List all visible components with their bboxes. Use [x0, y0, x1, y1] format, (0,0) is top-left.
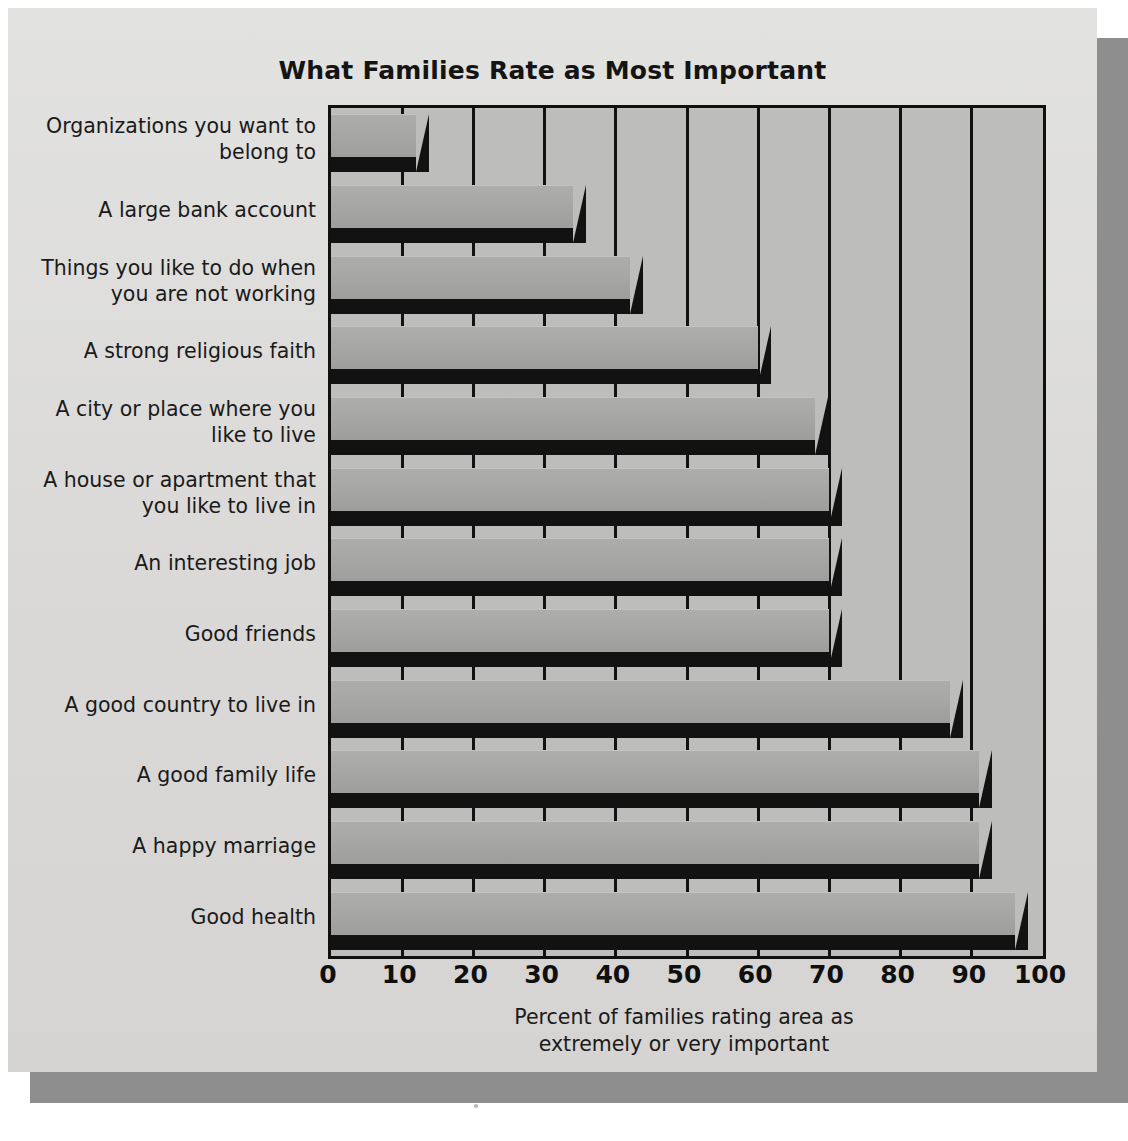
- value-axis-tick-label: 100: [1014, 960, 1066, 989]
- axis-tick-mark: [614, 596, 617, 609]
- axis-tick-mark: [543, 172, 546, 185]
- category-label: Good health: [16, 904, 316, 930]
- axis-tick-mark: [686, 455, 689, 468]
- category-label: Organizations you want tobelong to: [16, 113, 316, 165]
- axis-tick-mark: [970, 808, 973, 821]
- bar-body: [331, 326, 758, 370]
- axis-tick-mark: [401, 384, 404, 397]
- axis-tick-mark: [543, 243, 546, 256]
- category-label-line: belong to: [16, 139, 316, 165]
- axis-tick-mark: [686, 738, 689, 751]
- category-label-line: like to live: [16, 422, 316, 448]
- axis-tick-mark: [686, 108, 689, 114]
- axis-tick-mark: [828, 526, 831, 539]
- axis-tick-mark: [401, 950, 404, 956]
- axis-tick-mark: [970, 172, 973, 185]
- axis-tick-mark: [970, 314, 973, 327]
- axis-tick-mark: [472, 108, 475, 114]
- axis-tick-mark: [472, 667, 475, 680]
- axis-tick-mark: [543, 950, 546, 956]
- category-label-line: A large bank account: [16, 197, 316, 223]
- bar: [331, 750, 979, 808]
- category-label-line: A strong religious faith: [16, 338, 316, 364]
- value-axis-tick-label: 60: [738, 960, 773, 989]
- axis-tick-mark: [543, 314, 546, 327]
- axis-tick-mark: [401, 108, 404, 114]
- axis-tick-mark: [543, 108, 546, 114]
- axis-tick-mark: [970, 738, 973, 751]
- axis-tick-mark: [828, 384, 831, 397]
- value-axis-tick-label: 70: [809, 960, 844, 989]
- axis-tick-mark: [828, 455, 831, 468]
- axis-tick-mark: [614, 667, 617, 680]
- value-axis-tick-label: 40: [595, 960, 630, 989]
- axis-tick-mark: [686, 950, 689, 956]
- axis-tick-mark: [757, 526, 760, 539]
- axis-tick-mark: [686, 879, 689, 892]
- axis-tick-mark: [828, 667, 831, 680]
- category-label-line: Good friends: [16, 621, 316, 647]
- panel-drop-shadow-right: [1097, 38, 1128, 1103]
- axis-tick-mark: [543, 596, 546, 609]
- axis-tick-mark: [401, 172, 404, 185]
- bar-shadow: [331, 511, 829, 526]
- category-label: A happy marriage: [16, 833, 316, 859]
- axis-tick-mark: [614, 950, 617, 956]
- bar-shadow: [331, 864, 979, 879]
- category-label: A city or place where youlike to live: [16, 396, 316, 448]
- axis-tick-mark: [686, 667, 689, 680]
- category-label-line: Things you like to do when: [16, 255, 316, 281]
- axis-tick-mark: [401, 738, 404, 751]
- axis-tick-mark: [970, 596, 973, 609]
- axis-tick-mark: [614, 172, 617, 185]
- category-label-line: A good family life: [16, 762, 316, 788]
- paper-speck: [474, 1104, 478, 1108]
- category-label: Things you like to do whenyou are not wo…: [16, 255, 316, 307]
- value-axis-tick-label: 30: [524, 960, 559, 989]
- bar-shadow: [331, 369, 758, 384]
- bar-body: [331, 468, 829, 512]
- axis-tick-mark: [757, 879, 760, 892]
- axis-tick-mark: [614, 455, 617, 468]
- bar-body: [331, 114, 416, 158]
- bar: [331, 892, 1015, 950]
- axis-tick-mark: [899, 879, 902, 892]
- axis-tick-mark: [614, 738, 617, 751]
- bar-end-cap: [979, 821, 992, 879]
- axis-tick-mark: [899, 950, 902, 956]
- axis-tick-mark: [757, 243, 760, 256]
- axis-tick-mark: [828, 738, 831, 751]
- axis-tick-mark: [543, 738, 546, 751]
- axis-tick-mark: [401, 879, 404, 892]
- category-label: A house or apartment thatyou like to liv…: [16, 467, 316, 519]
- axis-tick-mark: [543, 879, 546, 892]
- bar-end-cap: [979, 750, 992, 808]
- axis-tick-mark: [686, 596, 689, 609]
- panel-drop-shadow-bottom: [30, 1072, 1128, 1103]
- axis-tick-mark: [899, 738, 902, 751]
- category-label: A strong religious faith: [16, 338, 316, 364]
- bar-body: [331, 397, 815, 441]
- category-label-line: A good country to live in: [16, 692, 316, 718]
- axis-tick-mark: [401, 667, 404, 680]
- axis-tick-mark: [899, 596, 902, 609]
- category-label-line: An interesting job: [16, 550, 316, 576]
- axis-tick-mark: [828, 243, 831, 256]
- axis-tick-mark: [472, 950, 475, 956]
- axis-tick-mark: [543, 808, 546, 821]
- axis-tick-mark: [757, 596, 760, 609]
- axis-tick-mark: [970, 526, 973, 539]
- axis-tick-mark: [970, 384, 973, 397]
- axis-tick-mark: [899, 808, 902, 821]
- axis-tick-mark: [614, 384, 617, 397]
- bar: [331, 326, 758, 384]
- category-label-line: Organizations you want to: [16, 113, 316, 139]
- value-axis-tick-label: 10: [382, 960, 417, 989]
- axis-tick-mark: [543, 526, 546, 539]
- value-axis-tick-label: 90: [951, 960, 986, 989]
- axis-tick-mark: [899, 172, 902, 185]
- category-label-line: A city or place where you: [16, 396, 316, 422]
- value-axis-caption: Percent of families rating area as extre…: [328, 1004, 1040, 1058]
- axis-tick-mark: [757, 667, 760, 680]
- axis-tick-mark: [899, 526, 902, 539]
